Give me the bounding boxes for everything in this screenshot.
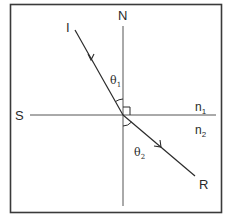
diagram-frame: [11, 5, 222, 213]
label-surface: S: [15, 108, 24, 123]
refraction-diagram: N S I R θ1 θ2 n1 n2: [0, 0, 226, 218]
label-normal: N: [118, 8, 127, 23]
label-incident: I: [66, 20, 70, 35]
label-refracted: R: [199, 177, 208, 192]
